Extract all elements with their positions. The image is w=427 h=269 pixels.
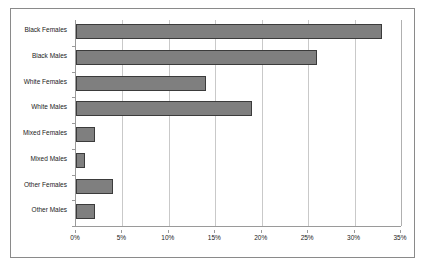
bar-row [76,149,401,175]
bar[interactable] [76,101,252,116]
value-axis: 0%5%10%15%20%25%30%35% [75,230,400,244]
bar-row [76,72,401,98]
x-axis-label: 0% [70,234,79,241]
x-axis-tick [168,230,169,233]
x-axis-label: 20% [254,234,267,241]
category-label: Other Females [7,181,67,189]
x-axis-label: 35% [393,234,406,241]
x-axis-label: 10% [161,234,174,241]
chart-frame: Black FemalesBlack MalesWhite FemalesWhi… [10,8,415,258]
x-axis-tick [121,230,122,233]
bar-row [76,20,401,46]
bar[interactable] [76,204,95,219]
bar-row [76,46,401,72]
category-tick [72,72,75,73]
category-label: Mixed Males [7,155,67,163]
bar[interactable] [76,24,382,39]
x-axis-label: 5% [117,234,126,241]
bar[interactable] [76,50,317,65]
bar[interactable] [76,127,95,142]
category-slot: Mixed Females [11,123,71,149]
x-axis-tick [214,230,215,233]
bar[interactable] [76,76,206,91]
category-slot: White Males [11,97,71,123]
category-slot: Other Females [11,175,71,201]
category-label: White Females [7,78,67,86]
x-axis-tick [75,230,76,233]
category-label: Black Males [7,52,67,60]
category-tick [72,175,75,176]
category-slot: White Females [11,72,71,98]
category-label: Black Females [7,26,67,34]
bar-row [76,97,401,123]
bar[interactable] [76,179,113,194]
category-slot: Black Males [11,46,71,72]
bar[interactable] [76,153,85,168]
category-slot: Other Males [11,200,71,226]
category-tick [72,46,75,47]
x-axis-label: 15% [208,234,221,241]
x-axis-tick [400,230,401,233]
category-axis: Black FemalesBlack MalesWhite FemalesWhi… [11,20,71,226]
category-tick [72,200,75,201]
plot-area [75,20,401,227]
x-axis-tick [307,230,308,233]
x-axis-tick [354,230,355,233]
category-tick [72,97,75,98]
category-label: White Males [7,103,67,111]
category-label: Mixed Females [7,129,67,137]
category-slot: Black Females [11,20,71,46]
bar-row [76,200,401,226]
gridline [401,20,402,226]
category-slot: Mixed Males [11,149,71,175]
x-axis-label: 25% [301,234,314,241]
category-label: Other Males [7,206,67,214]
category-tick [72,123,75,124]
bar-row [76,175,401,201]
category-tick [72,226,75,227]
x-axis-label: 30% [347,234,360,241]
bar-row [76,123,401,149]
category-tick [72,149,75,150]
x-axis-tick [261,230,262,233]
chart-canvas: Black FemalesBlack MalesWhite FemalesWhi… [11,9,414,257]
